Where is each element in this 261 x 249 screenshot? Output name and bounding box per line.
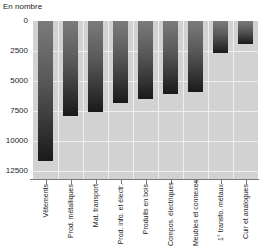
plot-area — [33, 21, 258, 179]
y-axis-unit-label: En nombre — [3, 2, 42, 11]
bar-9 — [238, 21, 253, 44]
category-label: Meubles et connexes — [191, 184, 201, 246]
y-tick-label: 12500 — [0, 166, 28, 176]
v-gridline — [83, 21, 84, 179]
v-gridline — [208, 21, 209, 179]
v-gridline — [233, 21, 234, 179]
y-tick-label: 0 — [0, 16, 28, 26]
y-tick-label: 10000 — [0, 136, 28, 146]
v-gridline — [158, 21, 159, 179]
category-label: Prod. métalliques — [66, 184, 76, 246]
category-label: Produits en bois — [141, 184, 151, 246]
h-gridline — [33, 141, 258, 142]
bar-chart: En nombre 02500500075001000012500 Vêteme… — [0, 0, 261, 249]
h-gridline — [33, 171, 258, 172]
v-gridline — [108, 21, 109, 179]
v-gridline — [183, 21, 184, 179]
y-tick-label: 7500 — [0, 106, 28, 116]
y-tick-label: 5000 — [0, 76, 28, 86]
category-label: Prod. info. et électr. — [116, 184, 126, 246]
category-label: Cuir et analogues — [241, 184, 251, 246]
category-label: Vêtements — [41, 184, 51, 246]
bar-4 — [113, 21, 128, 103]
bar-1 — [38, 21, 53, 161]
category-label: Compos. électriques — [166, 184, 176, 246]
bar-2 — [63, 21, 78, 116]
x-axis-line — [30, 179, 259, 180]
y-tick-label: 2500 — [0, 46, 28, 56]
bar-3 — [88, 21, 103, 112]
v-gridline — [58, 21, 59, 179]
bar-7 — [188, 21, 203, 92]
bar-6 — [163, 21, 178, 94]
bar-8 — [213, 21, 228, 53]
v-gridline — [133, 21, 134, 179]
bar-5 — [138, 21, 153, 99]
category-label: 1° transfo. métaux — [216, 184, 226, 246]
category-label: Mat. transport — [91, 184, 101, 246]
